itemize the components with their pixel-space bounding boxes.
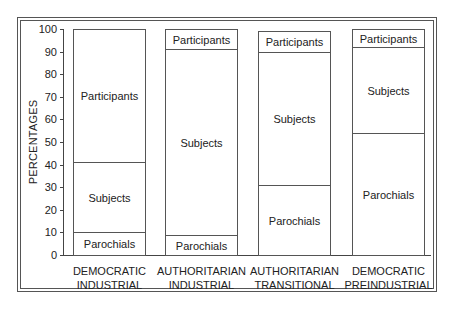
- segment-label: Participants: [173, 34, 230, 46]
- segment-label: Participants: [266, 36, 323, 48]
- y-tick-mark: [60, 210, 64, 211]
- y-tick-mark: [60, 119, 64, 120]
- segment-label: Participants: [360, 33, 417, 45]
- y-tick-mark: [60, 232, 64, 233]
- segment-label: Subjects: [180, 137, 222, 149]
- segment-label: Parochials: [176, 240, 227, 252]
- y-tick-label: 30: [30, 181, 57, 193]
- y-tick-mark: [60, 187, 64, 188]
- bar-segment-subjects: Subjects: [352, 47, 425, 134]
- segment-label: Parochials: [84, 238, 135, 250]
- x-category-label-line: DEMOCRATIC: [339, 264, 439, 278]
- x-category-label: AUTHORITARIANINDUSTRIAL: [152, 264, 252, 292]
- segment-label: Participants: [81, 90, 138, 102]
- y-tick-mark: [60, 97, 64, 98]
- y-tick-label: 40: [30, 159, 57, 171]
- bar-segment-subjects: Subjects: [73, 162, 146, 233]
- segment-label: Subjects: [367, 85, 409, 97]
- x-category-label: AUTHORITARIANTRANSITIONAL: [245, 264, 345, 292]
- y-tick-label: 70: [30, 91, 57, 103]
- x-category-label-line: PREINDUSTRIAL: [339, 278, 439, 292]
- bar-segment-parochials: Parochials: [165, 235, 238, 256]
- y-tick-mark: [60, 165, 64, 166]
- y-tick-label: 90: [30, 46, 57, 58]
- segment-label: Subjects: [88, 192, 130, 204]
- x-category-label-line: INDUSTRIAL: [60, 278, 160, 292]
- y-tick-label: 20: [30, 204, 57, 216]
- y-tick-label: 10: [30, 226, 57, 238]
- y-tick-mark: [60, 29, 64, 30]
- x-category-label-line: INDUSTRIAL: [152, 278, 252, 292]
- bar-segment-parochials: Parochials: [258, 185, 331, 256]
- segment-label: Subjects: [273, 113, 315, 125]
- segment-label: Parochials: [363, 189, 414, 201]
- x-category-label: DEMOCRATICINDUSTRIAL: [60, 264, 160, 292]
- y-tick-label: 60: [30, 113, 57, 125]
- y-tick-label: 80: [30, 68, 57, 80]
- bar-segment-participants: Participants: [258, 31, 331, 53]
- y-tick-label: 0: [30, 249, 57, 261]
- y-tick-mark: [60, 255, 64, 256]
- bar-segment-participants: Participants: [73, 29, 146, 163]
- x-category-label-line: AUTHORITARIAN: [152, 264, 252, 278]
- x-category-label-line: DEMOCRATIC: [60, 264, 160, 278]
- segment-label: Parochials: [269, 215, 320, 227]
- y-tick-mark: [60, 142, 64, 143]
- x-category-label-line: TRANSITIONAL: [245, 278, 345, 292]
- bar-segment-subjects: Subjects: [258, 52, 331, 186]
- y-tick-mark: [60, 74, 64, 75]
- bar-segment-participants: Participants: [352, 29, 425, 48]
- x-category-label: DEMOCRATICPREINDUSTRIAL: [339, 264, 439, 292]
- y-tick-label: 100: [30, 23, 57, 35]
- bar-segment-subjects: Subjects: [165, 49, 238, 236]
- bar-segment-parochials: Parochials: [352, 133, 425, 256]
- y-tick-label: 50: [30, 136, 57, 148]
- bar-segment-parochials: Parochials: [73, 232, 146, 256]
- bar-segment-participants: Participants: [165, 29, 238, 50]
- y-tick-mark: [60, 52, 64, 53]
- x-category-label-line: AUTHORITARIAN: [245, 264, 345, 278]
